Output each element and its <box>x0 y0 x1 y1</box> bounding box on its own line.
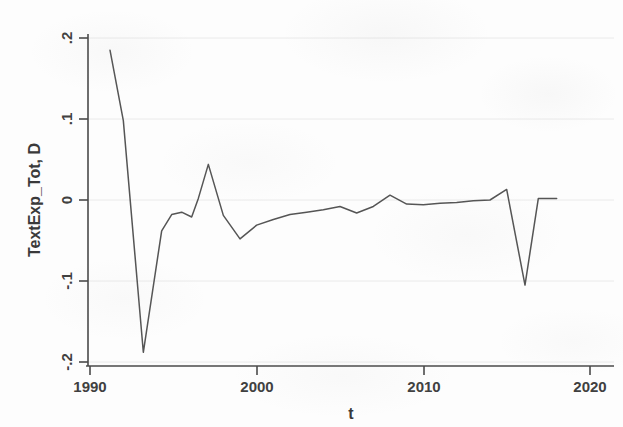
y-tick-label-0: 0 <box>58 196 75 204</box>
x-axis-ticks <box>90 366 590 375</box>
x-axis-title: t <box>348 405 354 422</box>
y-tick-label--0.2: -.2 <box>58 353 75 371</box>
chart-figure: .2 .1 0 -.1 -.2 1990 2000 2010 2020 Text… <box>0 0 623 427</box>
x-axis-tick-labels: 1990 2000 2010 2020 <box>73 378 606 395</box>
x-tick-label-2020: 2020 <box>573 378 606 395</box>
data-series-line <box>110 50 557 352</box>
y-axis-tick-labels: .2 .1 0 -.1 -.2 <box>58 32 75 371</box>
y-tick-label--0.1: -.1 <box>58 272 75 290</box>
y-tick-label-0.1: .1 <box>58 113 75 126</box>
gridlines <box>88 38 614 362</box>
y-axis-title: TextExp_Tot, D <box>26 143 43 257</box>
x-tick-label-2000: 2000 <box>240 378 273 395</box>
x-tick-label-2010: 2010 <box>407 378 440 395</box>
y-axis-ticks <box>79 38 88 362</box>
line-chart-plot: .2 .1 0 -.1 -.2 1990 2000 2010 2020 Text… <box>0 0 623 427</box>
y-tick-label-0.2: .2 <box>58 32 75 45</box>
x-tick-label-1990: 1990 <box>73 378 106 395</box>
